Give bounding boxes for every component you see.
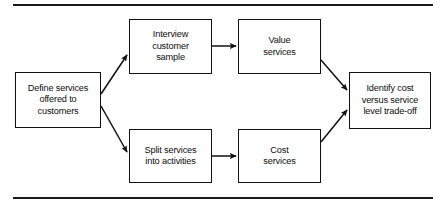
node-split-services-into-activities: Split services into activities	[129, 129, 212, 183]
flowchart-figure: Define services offered to customers Int…	[0, 0, 445, 210]
node-define-services: Define services offered to customers	[15, 72, 101, 128]
node-cost-services: Cost services	[238, 129, 321, 183]
edge-define-to-interview	[101, 55, 127, 94]
node-identify-cost-versus-service-level-trade-off: Identify cost versus service level trade…	[349, 72, 431, 129]
top-divider-rule	[13, 4, 433, 6]
node-value-services: Value services	[238, 19, 321, 74]
edge-value-to-identify	[321, 60, 347, 90]
node-interview-customer-sample: Interview customer sample	[129, 19, 212, 74]
edge-define-to-split	[101, 106, 127, 152]
edge-cost-to-identify	[321, 110, 347, 142]
bottom-divider-rule	[13, 197, 433, 199]
